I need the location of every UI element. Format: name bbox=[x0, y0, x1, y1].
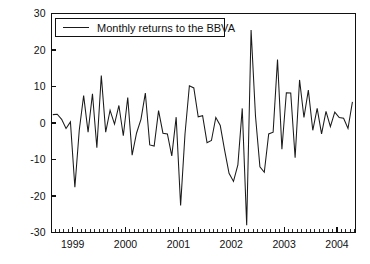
x-tick-label: 2003 bbox=[272, 238, 296, 250]
y-tick-label: -20 bbox=[30, 190, 45, 202]
legend-label: Monthly returns to the BBVA bbox=[97, 22, 236, 34]
x-tick-label: 2002 bbox=[220, 238, 244, 250]
x-tick-label: 2004 bbox=[325, 238, 349, 250]
x-tick-label: 2001 bbox=[167, 238, 191, 250]
line-chart-canvas: 3020100-10-20-30 19992000200120022003200… bbox=[0, 0, 370, 264]
y-tick-label: 0 bbox=[40, 117, 46, 129]
x-tick-label: 1999 bbox=[61, 238, 85, 250]
y-tick-label: 10 bbox=[34, 80, 46, 92]
chart-legend: Monthly returns to the BBVA bbox=[56, 19, 236, 37]
y-tick-label: -30 bbox=[30, 226, 45, 238]
chart-figure: 3020100-10-20-30 19992000200120022003200… bbox=[0, 0, 370, 264]
y-tick-label: 30 bbox=[34, 7, 46, 19]
y-tick-label: 20 bbox=[34, 44, 46, 56]
y-tick-label: -10 bbox=[30, 153, 45, 165]
x-tick-label: 2000 bbox=[114, 238, 138, 250]
